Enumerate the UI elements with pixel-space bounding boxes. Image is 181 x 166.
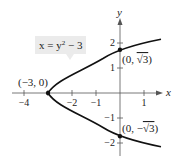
bottom-intercept-point bbox=[118, 134, 122, 138]
x-axis: x −4 −2 −1 1 bbox=[12, 86, 171, 108]
x-tick-label: −4 bbox=[19, 97, 30, 108]
x-tick-label: 1 bbox=[142, 97, 147, 108]
y-tick-label: 1 bbox=[110, 62, 115, 73]
equation-callout: x = y2 − 3 bbox=[35, 36, 86, 60]
y-tick-label: 2 bbox=[110, 37, 115, 48]
y-axis-label: y bbox=[116, 6, 122, 18]
top-intercept-point bbox=[118, 48, 122, 52]
bottom-intercept-label: (0, −√3) bbox=[122, 122, 158, 135]
y-tick-label: −1 bbox=[104, 112, 115, 123]
top-intercept-label: (0, √3) bbox=[122, 53, 152, 66]
y-tick-label: −2 bbox=[104, 137, 115, 148]
vertex-label: (−3, 0) bbox=[18, 76, 48, 89]
equation-label: x = y2 − 3 bbox=[39, 39, 83, 51]
x-tick-label: −1 bbox=[91, 97, 102, 108]
x-axis-label: x bbox=[165, 86, 171, 98]
x-axis-arrow-icon bbox=[156, 91, 163, 96]
parabola-chart: x = y2 − 3 x −4 −2 −1 1 y 2 1 −1 −2 bbox=[0, 0, 181, 166]
x-tick-label: −2 bbox=[67, 97, 78, 108]
vertex-point bbox=[46, 91, 50, 95]
y-axis-arrow-icon bbox=[118, 18, 123, 25]
